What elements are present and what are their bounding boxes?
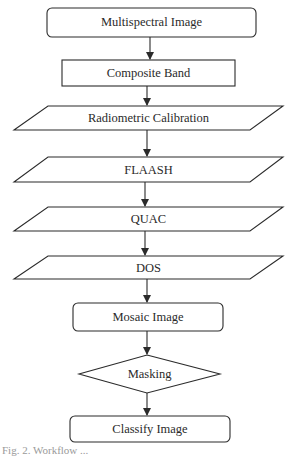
label-radiometric-calibration: Radiometric Calibration [14, 112, 283, 125]
label-masking: Masking [79, 368, 220, 381]
label-flaash: FLAASH [14, 164, 283, 177]
label-classify-image: Classify Image [70, 423, 230, 436]
label-multispectral-image: Multispectral Image [47, 16, 256, 29]
figure-caption: Fig. 2. Workflow ... [2, 444, 88, 456]
label-dos: DOS [14, 262, 283, 275]
label-quac: QUAC [14, 213, 283, 226]
label-composite-band: Composite Band [62, 67, 235, 80]
label-mosaic-image: Mosaic Image [73, 311, 223, 324]
